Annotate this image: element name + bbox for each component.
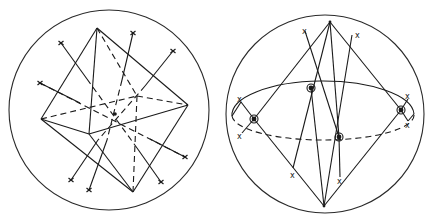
- right-sphere-equator-diagram: x x x x x x x x: [0, 0, 435, 217]
- figure-canvas: x x x x x x x x: [0, 0, 435, 217]
- north-pole-point: [329, 21, 332, 24]
- x-label: x: [355, 31, 360, 40]
- south-pole-point: [323, 205, 326, 208]
- x-label: x: [405, 92, 410, 101]
- x-label: x: [405, 121, 410, 130]
- x-label: x: [337, 177, 342, 186]
- pole-lines: [232, 22, 414, 206]
- x-label: x: [237, 95, 242, 104]
- right-sphere-outline: [226, 15, 424, 213]
- circled-points: [250, 84, 405, 141]
- circled-point: [397, 106, 405, 114]
- circled-point: [250, 115, 258, 123]
- x-label: x: [237, 132, 242, 141]
- x-labels: x x x x x x x x: [237, 27, 410, 186]
- x-label: x: [302, 27, 307, 36]
- x-label: x: [290, 171, 295, 180]
